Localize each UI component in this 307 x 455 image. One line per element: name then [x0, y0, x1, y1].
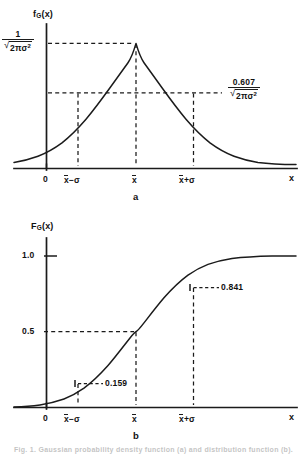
panel-a-xtick-mean: x — [132, 175, 137, 185]
panel-b-cdf-curve — [14, 256, 296, 407]
panel-a-xtick-plus-sigma: x+σ — [179, 175, 195, 185]
panel-b-xtick-mean: x — [132, 414, 137, 424]
panel-a-peak-value-label: 1 2πσ2 — [2, 30, 34, 52]
panel-b-ytick-one: 1.0 — [22, 251, 34, 260]
panel-a-y-axis-label: fG(x) — [33, 10, 53, 20]
panel-b-annotation-0159: 0.159 — [105, 379, 127, 388]
panel-b-label: b — [133, 431, 139, 441]
panel-b-xtick-plus-sigma: x+σ — [179, 414, 195, 424]
panel-b-xtick-zero: 0 — [43, 414, 48, 423]
panel-a-sigma-value-label: 0.607 2πσ2 — [228, 78, 260, 100]
figure-caption-fragment: Fig. 1. Gaussian probability density fun… — [0, 446, 307, 455]
panel-a-xtick-minus-sigma: x−σ — [64, 175, 80, 185]
panel-a-label: a — [133, 192, 138, 202]
panel-b-x-axis-label: x — [289, 413, 294, 422]
gaussian-figure: fG(x) 1 2πσ2 0.607 2πσ2 0 x−σ x x+σ x a … — [0, 0, 307, 455]
panel-b-y-axis-label: FG(x) — [31, 222, 54, 232]
panel-b-xtick-minus-sigma: x−σ — [64, 414, 80, 424]
panel-a-gaussian-curve — [14, 43, 296, 164]
panel-b-annotation-0841: 0.841 — [221, 283, 243, 292]
panel-b-ytick-half: 0.5 — [22, 327, 34, 336]
panel-a-xtick-zero: 0 — [43, 175, 48, 184]
panel-a-x-axis-label: x — [289, 174, 294, 183]
